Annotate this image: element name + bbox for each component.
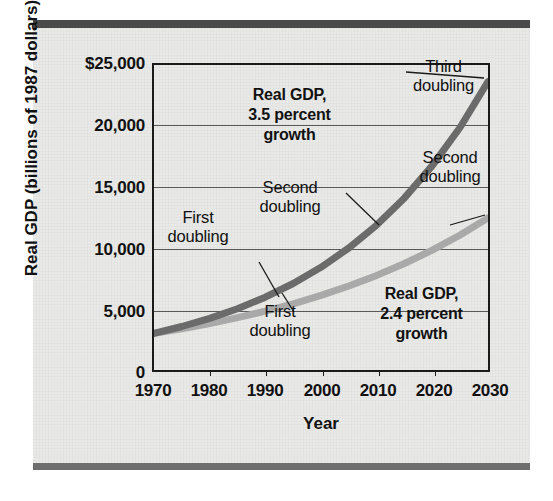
y-tick-label-5000: 5,000 <box>40 302 145 322</box>
annotation-third-doubling: Third doubling <box>396 57 491 95</box>
annotation-second-doubling-mid: Second doubling <box>244 178 336 216</box>
y-tick-label-20000: 20,000 <box>40 116 145 136</box>
x-tick-label-2000: 2000 <box>291 381 353 401</box>
annotation-second-doubling-right: Second doubling <box>404 148 496 186</box>
y-tick-label-0: 0 <box>40 363 145 383</box>
x-tick-1980 <box>210 370 211 376</box>
annotation-first-doubling-lower: First doubling <box>238 302 322 340</box>
x-axis-title: Year <box>152 414 490 434</box>
x-tick-label-2020: 2020 <box>403 381 465 401</box>
annotation-upper-series-label: Real GDP, 3.5 percent growth <box>232 85 347 145</box>
annotation-lower-series-label: Real GDP, 2.4 percent growth <box>364 284 479 344</box>
y-tick-label-15000: 15,000 <box>40 178 145 198</box>
leader-first-doubling-upper <box>259 262 279 297</box>
y-axis-title: Real GDP (billions of 1987 dollars) <box>22 0 42 288</box>
x-tick-2010 <box>379 370 380 376</box>
leader-second-doubling-right <box>450 215 485 225</box>
x-tick-1990 <box>266 370 267 376</box>
x-tick-label-1980: 1980 <box>178 381 240 401</box>
annotation-first-doubling-upper: First doubling <box>156 208 240 246</box>
x-tick-2020 <box>435 370 436 376</box>
x-tick-2000 <box>323 370 324 376</box>
y-tick-label-10000: 10,000 <box>40 240 145 260</box>
x-tick-label-2010: 2010 <box>347 381 409 401</box>
chart-figure: Real GDP (billions of 1987 dollars) $25,… <box>0 0 553 501</box>
x-tick-label-1970: 1970 <box>122 381 184 401</box>
x-tick-label-2030: 2030 <box>459 381 521 401</box>
y-tick-label-25000: $25,000 <box>40 54 145 74</box>
x-tick-label-1990: 1990 <box>234 381 296 401</box>
leader-second-doubling-mid <box>346 193 379 225</box>
